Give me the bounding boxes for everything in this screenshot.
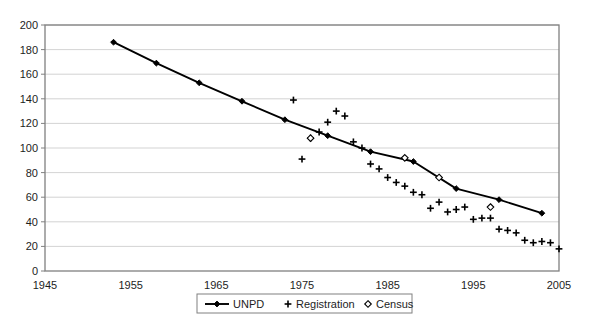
x-tick-label: 1945: [33, 279, 57, 291]
legend-label: Registration: [296, 298, 355, 310]
chart-legend: UNPDRegistrationCensus: [197, 294, 414, 313]
y-tick-label: 20: [26, 240, 38, 252]
x-tick-label: 1955: [118, 279, 142, 291]
x-tick-label: 1975: [290, 279, 314, 291]
mortality-trend-chart: 020406080100120140160180200 194519551965…: [0, 0, 596, 328]
y-tick-label: 180: [20, 44, 38, 56]
y-tick-label: 40: [26, 216, 38, 228]
x-tick-label: 1965: [204, 279, 228, 291]
y-tick-label: 200: [20, 19, 38, 31]
chart-container: 020406080100120140160180200 194519551965…: [0, 0, 596, 328]
y-tick-label: 60: [26, 191, 38, 203]
y-tick-label: 80: [26, 167, 38, 179]
y-tick-label: 0: [32, 265, 38, 277]
y-tick-label: 160: [20, 68, 38, 80]
y-tick-label: 120: [20, 117, 38, 129]
legend-item-registration[interactable]: Registration: [285, 298, 355, 310]
x-tick-label: 1995: [461, 279, 485, 291]
x-tick-label: 1985: [375, 279, 399, 291]
x-tick-label: 2005: [547, 279, 571, 291]
y-tick-label: 140: [20, 93, 38, 105]
legend-label: UNPD: [233, 298, 264, 310]
y-tick-label: 100: [20, 142, 38, 154]
legend-label: Census: [376, 298, 414, 310]
